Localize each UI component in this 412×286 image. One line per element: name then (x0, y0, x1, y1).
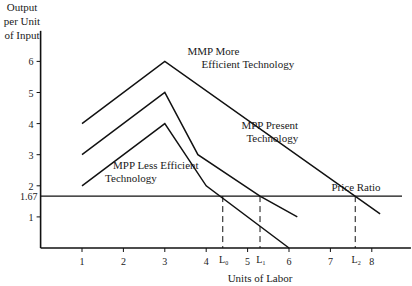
series-label-3: Technology (105, 172, 157, 184)
y-axis-label: of Input (4, 29, 39, 41)
x-tick-label: 7 (328, 256, 333, 267)
x-tick-label: 5 (245, 256, 250, 267)
x-axis-label: Units of Labor (228, 272, 293, 284)
price-ratio-label: Price Ratio (331, 181, 381, 193)
series-label-2: MPP Present (241, 119, 298, 131)
y-tick-label: 5 (29, 88, 34, 99)
x-tick-label: 2 (121, 256, 126, 267)
x-tick-label: 6 (287, 256, 292, 267)
x-tick-label: 8 (369, 256, 374, 267)
y-tick-label: 3 (29, 150, 34, 161)
series-label-2: Technology (246, 132, 298, 144)
y-tick-label: 1 (29, 212, 34, 223)
y-tick-label: 6 (29, 56, 34, 67)
x-tick-label: 4 (204, 256, 209, 267)
marker-label-1: L₁ (256, 254, 266, 265)
marker-label-0: L₀ (219, 254, 229, 265)
y-axis-label: Output (7, 1, 38, 13)
y-axis-label: per Unit (4, 15, 40, 27)
x-tick-label: 1 (80, 256, 85, 267)
series-line-2 (82, 93, 297, 217)
series-label-1: Efficient Technology (202, 58, 295, 70)
marker-label-2: L₂ (351, 254, 361, 265)
y-tick-label: 4 (29, 119, 34, 130)
series-label-3: MPP Less Efficient (113, 159, 199, 171)
y-tick-label-price: 1.67 (20, 191, 38, 202)
production-chart: Outputper Unitof Input1234561.6712345678… (0, 0, 412, 286)
series-label-1: MMP More (188, 45, 240, 57)
x-tick-label: 3 (162, 256, 167, 267)
